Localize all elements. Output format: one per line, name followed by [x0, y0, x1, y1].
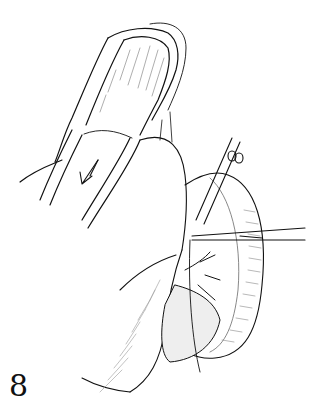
forceps-upper [196, 138, 243, 224]
bowel-loop [55, 23, 186, 162]
bowel-tube-lower [20, 130, 140, 228]
figure-number: 8 [9, 371, 28, 401]
surgical-drawing [0, 0, 327, 413]
illustration: 8 [0, 0, 327, 413]
hatching [100, 280, 160, 392]
direction-arrow [80, 160, 98, 184]
